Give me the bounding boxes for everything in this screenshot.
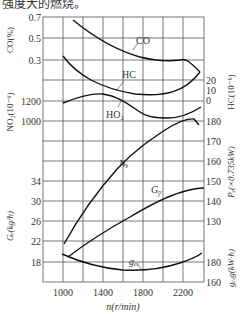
svg-text:160: 160 xyxy=(206,277,221,288)
svg-text:140: 140 xyxy=(206,196,221,207)
svg-text:18: 18 xyxy=(31,257,41,268)
svg-text:1000: 1000 xyxy=(53,287,73,298)
svg-text:170: 170 xyxy=(206,136,221,147)
ne-curve-label: Nₑ xyxy=(118,158,129,169)
svg-text:0.7: 0.7 xyxy=(29,12,42,23)
no2-axis-label: NO₂(10⁻⁶) xyxy=(5,92,15,131)
grid xyxy=(43,17,204,282)
svg-text:22: 22 xyxy=(31,236,41,247)
ge-curve-label: gₑᵥ xyxy=(129,256,140,267)
svg-text:150: 150 xyxy=(206,176,221,187)
gf-axis-label: Gᵣ(kg/h) xyxy=(5,211,15,241)
svg-text:180: 180 xyxy=(206,116,221,127)
svg-text:2200: 2200 xyxy=(173,287,193,298)
hc-curve-label: HC xyxy=(122,69,136,80)
no2-curve xyxy=(63,94,201,118)
svg-text:34: 34 xyxy=(31,176,41,187)
co-axis-label: CO(%) xyxy=(5,27,15,53)
svg-text:30: 30 xyxy=(31,196,41,207)
ne-curve xyxy=(64,119,199,244)
svg-text:180: 180 xyxy=(206,257,221,268)
svg-text:1800: 1800 xyxy=(133,287,153,298)
left-tick-labels: 0.7 0.5 0.3 1200 1000 34 30 26 22 18 xyxy=(21,12,41,268)
svg-text:1000: 1000 xyxy=(21,116,41,127)
no2-curve-label: HO₂ xyxy=(106,109,124,120)
co-curve xyxy=(73,20,200,72)
svg-text:0.5: 0.5 xyxy=(29,33,42,44)
gf-curve-label: Gᵣ xyxy=(151,184,161,195)
x-axis-label: n(r/min) xyxy=(106,301,140,313)
svg-text:1400: 1400 xyxy=(93,287,113,298)
gf-curve xyxy=(68,188,204,257)
co-curve-label: CO xyxy=(136,35,150,46)
engine-characteristics-chart: CO HC HO₂ Nₑ Gᵣ gₑᵥ 0.7 0.5 0.3 1200 100… xyxy=(0,0,244,314)
svg-text:160: 160 xyxy=(206,156,221,167)
pe-axis-label: Pₑ(×0.735kW) xyxy=(226,146,236,199)
ge-axis-label: gₑ,g(kW·h) xyxy=(226,249,236,287)
svg-text:1200: 1200 xyxy=(21,96,41,107)
svg-text:0: 0 xyxy=(206,95,211,106)
right-tick-labels: 20 10 0 180 170 160 150 140 130 180 160 xyxy=(206,75,221,288)
hc-axis-label: HC(10⁻⁶) xyxy=(226,74,236,109)
svg-text:0.3: 0.3 xyxy=(29,55,42,66)
x-tick-labels: 1000 1400 1800 2200 xyxy=(53,287,193,298)
svg-text:26: 26 xyxy=(31,216,41,227)
svg-text:130: 130 xyxy=(206,216,221,227)
